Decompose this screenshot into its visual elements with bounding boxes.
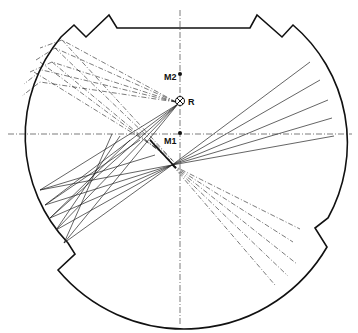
r-label: R xyxy=(188,97,195,107)
m2-label: M2 xyxy=(164,72,177,82)
m1-point xyxy=(178,131,182,135)
source-r-icon xyxy=(176,97,185,106)
right-solid-rays xyxy=(172,62,334,165)
reflector-diagram: M2 R M1 xyxy=(0,0,358,333)
left-solid-rays xyxy=(40,104,178,243)
lower-right-dashed-rays xyxy=(172,165,300,285)
m2-point xyxy=(178,72,182,76)
housing-outline xyxy=(25,15,347,329)
m1-label: M1 xyxy=(164,136,177,146)
